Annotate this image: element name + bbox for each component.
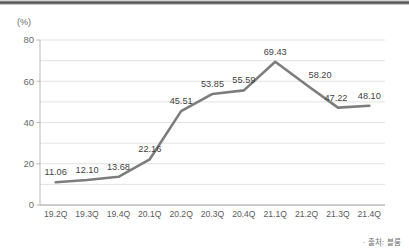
data-point-label: 55.59: [232, 75, 255, 85]
data-point-label: 22.16: [138, 144, 161, 154]
source-note: · 출처: 블룸: [363, 236, 401, 247]
x-axis-tick-label: 19.4Q: [107, 209, 131, 219]
x-axis-tick-label: 21.3Q: [326, 209, 350, 219]
line-chart: 020406080 19.2Q19.3Q19.4Q20.1Q20.2Q20.3Q…: [0, 5, 409, 251]
y-axis-tick-label: 40: [23, 117, 34, 128]
data-point-label: 53.85: [201, 79, 224, 89]
data-point-label: 58.20: [309, 70, 332, 80]
x-axis-tick-label: 21.1Q: [264, 209, 288, 219]
x-axis-tick-label: 19.3Q: [75, 209, 99, 219]
y-axis-tick-label: 80: [23, 34, 34, 45]
x-axis-tick-label: 20.2Q: [169, 209, 193, 219]
chart-canvas: 020406080 19.2Q19.3Q19.4Q20.1Q20.2Q20.3Q…: [0, 5, 409, 251]
data-point-label: 12.10: [76, 165, 99, 175]
data-point-label: 11.06: [45, 167, 67, 177]
data-point-label: 47.22: [324, 93, 347, 103]
data-point-label: 45.51: [170, 96, 193, 106]
x-axis-tick-label: 21.2Q: [295, 209, 319, 219]
data-point-labels: 11.0612.1013.6822.1645.5153.8555.5969.43…: [45, 47, 381, 177]
x-axis-tick-label: 20.1Q: [138, 209, 162, 219]
y-axis-tick-label: 60: [23, 76, 34, 87]
x-axis-tick-label: 20.4Q: [232, 209, 256, 219]
gridlines: [40, 40, 385, 184]
y-axis-tick-labels: 020406080: [23, 34, 40, 210]
y-axis-tick-label: 0: [29, 199, 34, 210]
data-point-label: 69.43: [264, 47, 287, 57]
x-axis-tick-label: 21.4Q: [358, 209, 382, 219]
data-point-label: 48.10: [358, 91, 381, 101]
y-axis-unit-label: (%): [17, 17, 31, 27]
data-point-label: 13.68: [107, 162, 130, 172]
x-axis-tick-labels: 19.2Q19.3Q19.4Q20.1Q20.2Q20.3Q20.4Q21.1Q…: [44, 209, 381, 219]
x-axis-tick-label: 20.3Q: [201, 209, 225, 219]
x-axis-tick-label: 19.2Q: [44, 209, 68, 219]
y-axis-tick-label: 20: [23, 158, 34, 169]
